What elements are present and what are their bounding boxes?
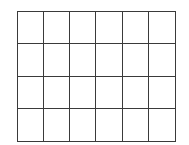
grid-cell	[149, 44, 175, 76]
grid-cell	[70, 109, 96, 141]
grid-cell	[44, 77, 70, 109]
grid-cell	[123, 77, 149, 109]
grid-cell	[44, 44, 70, 76]
grid-cell	[149, 77, 175, 109]
grid-cell	[18, 109, 44, 141]
grid-cell	[70, 77, 96, 109]
grid-cell	[96, 44, 122, 76]
diagram-canvas	[0, 0, 189, 145]
grid-cell	[18, 12, 44, 44]
rectangular-grid	[17, 11, 176, 142]
grid-cell	[149, 109, 175, 141]
grid-cell	[96, 109, 122, 141]
grid-cell	[18, 77, 44, 109]
grid-cell	[18, 44, 44, 76]
grid-cell	[149, 12, 175, 44]
grid-cell	[44, 12, 70, 44]
grid-cell	[96, 12, 122, 44]
grid-cell	[70, 12, 96, 44]
grid-cell	[123, 109, 149, 141]
grid-cell	[123, 44, 149, 76]
grid-cell	[96, 77, 122, 109]
grid-cell	[70, 44, 96, 76]
grid-cell	[44, 109, 70, 141]
grid-cell	[123, 12, 149, 44]
